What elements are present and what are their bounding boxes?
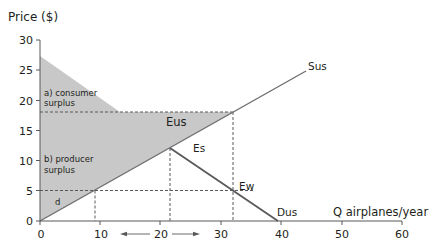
x-tick-label: 50	[335, 228, 349, 241]
sus-label: Sus	[308, 60, 327, 72]
y-tick-label: 0	[26, 215, 33, 228]
x-tick-label: 20	[154, 228, 168, 241]
y-axis-title: Price ($)	[8, 10, 58, 24]
y-tick-label: 5	[26, 185, 33, 198]
y-tick-label: 10	[19, 155, 33, 168]
eus-label: Eus	[166, 115, 187, 129]
x-tick-label: 0	[38, 228, 45, 241]
y-tick-label: 25	[19, 64, 33, 77]
demand-line-dus	[170, 148, 278, 221]
y-tick-label: 30	[19, 34, 33, 47]
x-tick-label: 10	[94, 228, 108, 241]
consumer-surplus-label-2: surplus	[44, 98, 75, 108]
y-tick-label: 15	[19, 125, 33, 138]
x-tick-label: 40	[275, 228, 289, 241]
producer-surplus-label: b) producer	[44, 154, 94, 164]
chart-canvas: Price ($) Q airplanes/year 30 25 20 15 1…	[0, 0, 435, 250]
x-axis-title: Q airplanes/year	[333, 205, 428, 219]
y-tick-label: 20	[19, 95, 33, 108]
x-tick-label: 30	[214, 228, 228, 241]
region-d-label: d	[55, 197, 60, 207]
producer-surplus-label-2: surplus	[44, 165, 75, 175]
es-label: Es	[193, 142, 205, 154]
dus-label: Dus	[277, 206, 297, 218]
ew-label: Ew	[239, 180, 255, 192]
x-tick-label: 60	[395, 228, 409, 241]
consumer-surplus-label: a) consumer	[44, 88, 98, 98]
